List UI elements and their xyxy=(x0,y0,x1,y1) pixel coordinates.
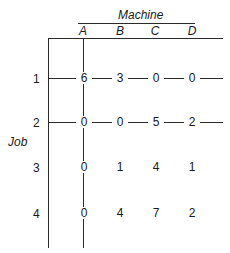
column-header-c: C xyxy=(145,24,165,38)
cell-2-d: 2 xyxy=(184,116,200,128)
cell-3-c: 4 xyxy=(148,161,164,173)
cell-3-d: 1 xyxy=(184,161,200,173)
cell-1-d: 0 xyxy=(184,72,200,84)
cell-4-a: 0 xyxy=(76,207,92,219)
cell-4-b: 4 xyxy=(112,207,128,219)
cell-1-c: 0 xyxy=(148,72,164,84)
cell-2-a: 0 xyxy=(76,116,92,128)
column-header-d: D xyxy=(182,24,202,38)
machine-group-label: Machine xyxy=(118,8,163,22)
cell-1-a: 6 xyxy=(76,72,92,84)
table-left-border xyxy=(48,38,49,248)
cell-4-d: 2 xyxy=(184,207,200,219)
cell-4-c: 7 xyxy=(148,207,164,219)
job-group-label: Job xyxy=(8,135,27,149)
cell-2-b: 0 xyxy=(112,116,128,128)
cell-1-b: 3 xyxy=(112,72,128,84)
column-header-a: A xyxy=(73,24,93,38)
cell-3-b: 1 xyxy=(112,161,128,173)
machine-underline xyxy=(78,23,195,24)
cell-2-c: 5 xyxy=(148,116,164,128)
row-label-2: 2 xyxy=(33,116,40,130)
row-label-4: 4 xyxy=(33,207,40,221)
column-header-b: B xyxy=(110,24,130,38)
table-top-border xyxy=(48,38,223,39)
row-label-1: 1 xyxy=(33,72,40,86)
row-label-3: 3 xyxy=(33,161,40,175)
cell-3-a: 0 xyxy=(76,161,92,173)
